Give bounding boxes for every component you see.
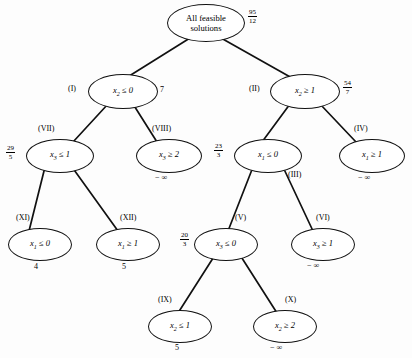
tree-edge-root-n1: [126, 38, 190, 78]
branch-and-bound-tree-figure: All feasiblesolutions9512x2 ≤ 0(I)7x2 ≥ …: [0, 0, 412, 358]
bound-fraction: 9512: [248, 9, 257, 25]
tree-node-label-n5: x3 ≤ 0: [216, 239, 236, 250]
tree-node-bound-n2: 547: [343, 80, 352, 96]
tree-node-tag-n10: (X): [285, 295, 296, 304]
tree-node-label-root: All feasiblesolutions: [186, 13, 226, 34]
tree-edge-n7-n12: [72, 167, 118, 231]
tree-node-label-n8: x3 ≥ 2: [159, 150, 179, 161]
tree-node-bound-n9: 5: [175, 343, 179, 352]
tree-node-label-n1: x2 ≤ 0: [113, 86, 133, 97]
tree-edge-layer: [0, 0, 412, 358]
tree-node-n5[interactable]: x3 ≤ 0: [194, 228, 258, 261]
tree-node-n2[interactable]: x2 ≥ 1: [270, 74, 340, 109]
fraction-denominator: 3: [180, 240, 189, 247]
tree-node-tag-n8: (VIII): [152, 124, 171, 133]
tree-node-n3[interactable]: x1 ≤ 0: [234, 139, 302, 173]
tree-node-bound-n1: 7: [160, 85, 164, 94]
tree-node-bound-n6: − ∞: [307, 261, 319, 270]
tree-node-bound-n4: − ∞: [358, 173, 370, 182]
bound-fraction: 295: [6, 145, 15, 161]
tree-edge-n1-n8: [133, 104, 157, 142]
tree-node-n10[interactable]: x2 ≥ 2: [253, 310, 317, 343]
tree-node-label-n3: x1 ≤ 0: [258, 150, 278, 161]
tree-node-label-n6: x3 ≥ 1: [313, 239, 333, 250]
fraction-denominator: 5: [6, 153, 15, 160]
fraction-denominator: 3: [214, 151, 223, 158]
tree-node-root[interactable]: All feasiblesolutions: [167, 4, 245, 42]
bound-fraction: 233: [214, 143, 223, 159]
bound-fraction: 547: [343, 80, 352, 96]
tree-node-n7[interactable]: x3 ≤ 1: [26, 139, 94, 173]
tree-node-tag-n3: (III): [288, 170, 301, 179]
tree-node-tag-n7: (VII): [38, 124, 54, 133]
tree-edge-n2-n4: [320, 104, 356, 142]
tree-node-bound-n10: − ∞: [270, 343, 282, 352]
tree-node-tag-n5: (V): [235, 213, 246, 222]
tree-node-label-n7: x3 ≤ 1: [50, 150, 70, 161]
tree-edge-n7-n11: [29, 167, 45, 231]
tree-node-bound-n5: 203: [180, 232, 189, 248]
tree-node-tag-n11: (XI): [16, 213, 30, 222]
fraction-denominator: 12: [248, 17, 257, 24]
tree-node-label-n10: x2 ≥ 2: [275, 321, 295, 332]
tree-node-label-n2: x2 ≥ 1: [295, 86, 315, 97]
tree-edge-n5-n10: [240, 255, 277, 313]
bound-fraction: 203: [180, 232, 189, 248]
tree-node-n6[interactable]: x3 ≥ 1: [291, 228, 355, 261]
tree-node-n8[interactable]: x3 ≥ 2: [136, 139, 202, 173]
tree-node-tag-n12: (XII): [120, 213, 136, 222]
tree-node-bound-n8: − ∞: [155, 173, 167, 182]
tree-node-bound-n12: 5: [122, 262, 126, 271]
tree-node-tag-n1: (I): [68, 84, 76, 93]
tree-node-tag-n9: (IX): [158, 295, 172, 304]
tree-node-n4[interactable]: x1 ≥ 1: [339, 139, 405, 173]
tree-node-n9[interactable]: x2 ≤ 1: [148, 310, 212, 343]
tree-edge-n1-n7: [73, 104, 108, 142]
tree-edge-root-n2: [221, 38, 292, 78]
tree-node-n11[interactable]: x1 ≤ 0: [8, 228, 72, 261]
tree-node-label-n12: x1 ≥ 1: [118, 239, 138, 250]
tree-node-bound-root: 9512: [248, 9, 257, 25]
tree-node-n1[interactable]: x2 ≤ 0: [88, 74, 158, 109]
tree-node-tag-n6: (VI): [316, 213, 330, 222]
tree-node-n12[interactable]: x1 ≥ 1: [96, 228, 160, 261]
tree-node-bound-n7: 295: [6, 145, 15, 161]
tree-node-label-n9: x2 ≤ 1: [170, 321, 190, 332]
tree-edge-n2-n3: [262, 104, 290, 142]
tree-edge-n5-n9: [178, 255, 215, 313]
tree-node-bound-n3: 233: [214, 143, 223, 159]
tree-node-bound-n11: 4: [34, 262, 38, 271]
fraction-denominator: 7: [343, 88, 352, 95]
tree-node-tag-n4: (IV): [354, 124, 368, 133]
tree-node-label-n11: x1 ≤ 0: [30, 239, 50, 250]
tree-node-tag-n2: (II): [249, 84, 260, 93]
tree-node-label-n4: x1 ≥ 1: [362, 150, 382, 161]
